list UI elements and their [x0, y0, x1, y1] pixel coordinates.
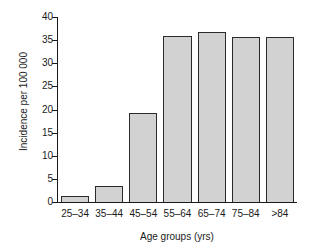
y-tick-label: 20 [42, 103, 53, 116]
bar-slot [58, 17, 92, 202]
bar-slot [195, 17, 229, 202]
x-tick-label: 75–84 [229, 207, 263, 220]
x-tick-label: 45–54 [126, 207, 160, 220]
bar-slot [160, 17, 194, 202]
y-tick-label: 5 [47, 172, 53, 185]
y-tick-label: 0 [47, 195, 53, 208]
bar[interactable] [129, 113, 157, 202]
bar-slot [263, 17, 297, 202]
x-tick-label: 35–44 [92, 207, 126, 220]
y-tick-label: 15 [42, 126, 53, 139]
y-tick-label: 35 [42, 33, 53, 46]
x-tick-label: 55–64 [160, 207, 194, 220]
bar[interactable] [95, 186, 123, 202]
bar-slot [126, 17, 160, 202]
y-axis-title: Incidence per 100 000 [14, 0, 34, 203]
x-tick-label: 65–74 [195, 207, 229, 220]
bar-slot [229, 17, 263, 202]
x-axis-title: Age groups (yrs) [57, 230, 297, 243]
bar[interactable] [163, 36, 191, 203]
y-tick-label: 10 [42, 149, 53, 162]
x-axis-line [57, 202, 297, 203]
bar[interactable] [232, 37, 260, 202]
x-tick-label: 25–34 [58, 207, 92, 220]
x-tick-label: >84 [263, 207, 297, 220]
plot-area: 0510152025303540 25–3435–4445–5455–6465–… [57, 17, 297, 203]
bar[interactable] [61, 196, 89, 202]
y-tick-label: 40 [42, 10, 53, 23]
bar[interactable] [266, 37, 294, 202]
bar-chart-figure: Incidence per 100 000 0510152025303540 2… [0, 0, 317, 250]
bar-slot [92, 17, 126, 202]
bar-series [58, 17, 297, 202]
bar[interactable] [198, 32, 226, 202]
y-tick-label: 25 [42, 79, 53, 92]
y-tick-label: 30 [42, 56, 53, 69]
